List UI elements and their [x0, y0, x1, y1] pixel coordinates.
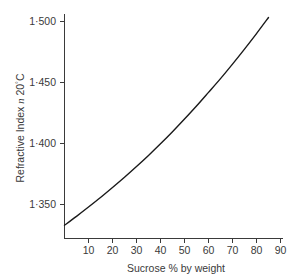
y-tick-label-1450: 1·450: [29, 76, 56, 88]
x-tick-label-30: 30: [131, 244, 143, 256]
y-tick-label-1500: 1·500: [29, 15, 56, 27]
x-axis-title: Sucrose % by weight: [127, 262, 225, 274]
y-axis-title-trail: 20: [14, 84, 26, 99]
x-tick-label-70: 70: [227, 244, 239, 256]
x-axis-tick-labels: 10 20 30 40 50 60 70 80 90: [83, 244, 287, 256]
y-axis-title: Refractive Index n 20°C: [14, 73, 26, 182]
x-tick-label-80: 80: [251, 244, 263, 256]
refractive-index-line-chart: 1·500 1·450 1·400 1·350 10 20 30 40 50 6…: [0, 0, 297, 278]
x-tick-label-90: 90: [275, 244, 287, 256]
y-tick-label-1350: 1·350: [29, 198, 56, 210]
x-tick-label-50: 50: [179, 244, 191, 256]
x-tick-label-20: 20: [107, 244, 119, 256]
y-tick-label-1400: 1·400: [29, 137, 56, 149]
x-tick-label-40: 40: [155, 244, 167, 256]
x-tick-label-60: 60: [203, 244, 215, 256]
y-axis-title-unit: C: [14, 73, 26, 81]
x-tick-label-10: 10: [83, 244, 95, 256]
svg-text:Refractive Index n 20°C: Refractive Index n 20°C: [14, 73, 26, 182]
chart-figure: 1·500 1·450 1·400 1·350 10 20 30 40 50 6…: [0, 0, 297, 278]
y-axis-title-lead: Refractive Index: [14, 104, 26, 183]
